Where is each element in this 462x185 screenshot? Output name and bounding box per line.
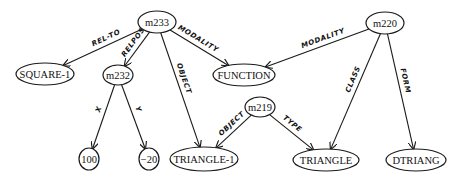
edge-arrow [265, 29, 368, 67]
node-m220: m220 [366, 12, 404, 34]
edge-label: OBJECT [175, 62, 193, 96]
node-label: FUNCTION [217, 70, 271, 81]
edge-m219-triangle1: OBJECT [216, 109, 251, 147]
node-label: DTRIANG [392, 155, 440, 166]
edge-m220-dtriang: FORM [387, 34, 413, 149]
node-triangle1: TRIANGLE-1 [170, 147, 238, 171]
nodes-layer: m233m220SQUARE-1m232FUNCTIONm219100−20TR… [16, 11, 446, 171]
edge-label: X [94, 105, 104, 114]
edge-arrow [122, 85, 146, 149]
node-label: m232 [106, 70, 130, 81]
node-20: −20 [139, 148, 159, 170]
node-function: FUNCTION [213, 64, 275, 86]
node-label: −20 [141, 154, 157, 165]
edge-m219-triangle: TYPE [270, 114, 314, 150]
node-label: 100 [81, 154, 97, 165]
node-label: m219 [248, 102, 272, 113]
semantic-network-diagram: REL-TORELPOSOBJECTMODALITYXYMODALITYCLAS… [0, 0, 462, 185]
edge-label: Y [133, 105, 143, 113]
node-m233: m233 [138, 11, 176, 33]
edge-label: TYPE [281, 114, 303, 134]
node-m232: m232 [103, 65, 133, 85]
node-label: TRIANGLE [300, 155, 353, 166]
node-triangle: TRIANGLE [293, 149, 359, 171]
edge-m232-20: Y [122, 85, 146, 149]
node-dtriang: DTRIANG [386, 149, 446, 171]
edges-layer: REL-TORELPOSOBJECTMODALITYXYMODALITYCLAS… [63, 24, 413, 150]
edge-arrow [161, 33, 200, 147]
edge-arrow [93, 85, 115, 149]
edge-m233-triangle1: OBJECT [161, 33, 200, 147]
edge-arrow [331, 34, 381, 149]
edge-label: MODALITY [177, 24, 221, 55]
node-label: m233 [145, 17, 169, 28]
edge-label: REL-TO [90, 28, 121, 48]
node-label: TRIANGLE-1 [173, 154, 234, 165]
node-label: SQUARE-1 [20, 69, 71, 80]
edge-m233-function: MODALITY [170, 24, 228, 66]
node-m219: m219 [245, 97, 275, 117]
node-100: 100 [79, 148, 99, 170]
edge-m220-function: MODALITY [265, 27, 368, 68]
node-label: m220 [373, 18, 397, 29]
node-square1: SQUARE-1 [16, 63, 74, 85]
edge-m232-100: X [93, 85, 115, 149]
edge-label: CLASS [344, 65, 362, 94]
edge-label: MODALITY [300, 27, 346, 50]
edge-m220-triangle: CLASS [331, 34, 381, 149]
edge-m233-m232: RELPOS [120, 26, 150, 66]
